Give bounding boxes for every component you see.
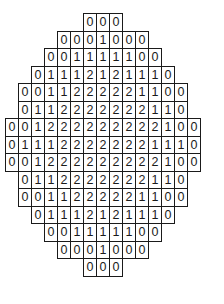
grid-cell: 1 <box>135 66 149 85</box>
grid-cell: 2 <box>122 153 136 172</box>
grid-cell: 0 <box>109 241 123 260</box>
grid-cell: 2 <box>83 188 97 207</box>
grid-cell: 0 <box>109 31 123 50</box>
grid-row: 0112222222110 <box>18 171 188 190</box>
grid-cell: 2 <box>70 118 84 137</box>
grid-cell: 1 <box>57 206 71 225</box>
grid-cell: 2 <box>96 118 110 137</box>
grid-cell: 0 <box>174 101 188 120</box>
grid-cell: 0 <box>18 83 32 102</box>
grid-cell: 1 <box>96 66 110 85</box>
grid-cell: 2 <box>83 83 97 102</box>
grid-cell: 2 <box>122 136 136 155</box>
grid-cell: 2 <box>70 83 84 102</box>
grid-cell: 1 <box>31 171 45 190</box>
grid-cell: 1 <box>31 153 45 172</box>
grid-cell: 0 <box>135 241 149 260</box>
grid-cell: 0 <box>96 13 110 32</box>
grid-cell: 2 <box>148 153 162 172</box>
grid-cell: 0 <box>135 31 149 50</box>
grid-cell: 2 <box>109 153 123 172</box>
grid-cell: 1 <box>70 48 84 67</box>
grid-cell: 1 <box>44 206 58 225</box>
grid-cell: 2 <box>135 153 149 172</box>
grid-cell: 0 <box>187 153 201 172</box>
grid-cell: 0 <box>161 66 175 85</box>
grid-cell: 1 <box>83 223 97 242</box>
grid-row: 0112222222110 <box>18 101 188 120</box>
grid-cell: 0 <box>161 188 175 207</box>
grid-cell: 2 <box>109 171 123 190</box>
grid-cell: 1 <box>44 101 58 120</box>
grid-cell: 2 <box>83 171 97 190</box>
grid-row: 0001000 <box>57 241 149 260</box>
grid-cell: 1 <box>109 223 123 242</box>
grid-cell: 0 <box>161 83 175 102</box>
grid-cell: 1 <box>44 188 58 207</box>
grid-cell: 0 <box>83 241 97 260</box>
grid-cell: 0 <box>96 258 110 277</box>
grid-cell: 2 <box>109 188 123 207</box>
grid-row: 001222222222100 <box>5 153 201 172</box>
grid-cell: 2 <box>96 153 110 172</box>
grid-cell: 1 <box>135 206 149 225</box>
grid-cell: 1 <box>109 48 123 67</box>
grid-cell: 2 <box>135 136 149 155</box>
grid-row: 001222222222100 <box>5 118 201 137</box>
grid-cell: 0 <box>44 223 58 242</box>
grid-cell: 0 <box>174 188 188 207</box>
grid-cell: 1 <box>148 101 162 120</box>
grid-cell: 0 <box>109 13 123 32</box>
grid-cell: 1 <box>44 66 58 85</box>
grid-cell: 2 <box>70 171 84 190</box>
grid-cell: 2 <box>109 66 123 85</box>
grid-cell: 1 <box>148 206 162 225</box>
grid-cell: 2 <box>96 136 110 155</box>
grid-cell: 2 <box>135 101 149 120</box>
grid-cell: 0 <box>122 241 136 260</box>
grid-cell: 1 <box>148 66 162 85</box>
grid-cell: 2 <box>57 118 71 137</box>
grid-cell: 2 <box>70 153 84 172</box>
grid-cell: 0 <box>18 153 32 172</box>
grid-cell: 2 <box>83 206 97 225</box>
grid-cell: 0 <box>18 188 32 207</box>
grid-cell: 0 <box>83 31 97 50</box>
grid-cell: 2 <box>44 118 58 137</box>
grid-cell: 0 <box>57 241 71 260</box>
grid-cell: 0 <box>161 206 175 225</box>
grid-cell: 2 <box>70 188 84 207</box>
grid-cell: 2 <box>122 83 136 102</box>
grid-cell: 2 <box>83 66 97 85</box>
grid-cell: 1 <box>44 136 58 155</box>
grid-cell: 2 <box>83 136 97 155</box>
grid-cell: 1 <box>122 66 136 85</box>
grid-cell: 1 <box>96 31 110 50</box>
grid-row: 000 <box>83 258 123 277</box>
grid-cell: 1 <box>70 223 84 242</box>
grid-cell: 2 <box>96 83 110 102</box>
grid-cell: 1 <box>122 48 136 67</box>
grid-cell: 0 <box>174 83 188 102</box>
grid-cell: 1 <box>18 136 32 155</box>
grid-cell: 0 <box>31 188 45 207</box>
grid-cell: 0 <box>5 136 19 155</box>
grid-cell: 2 <box>57 153 71 172</box>
grid-cell: 2 <box>96 171 110 190</box>
grid-cell: 0 <box>57 31 71 50</box>
grid-cell: 2 <box>122 171 136 190</box>
grid-cell: 2 <box>83 153 97 172</box>
grid-cell: 1 <box>31 101 45 120</box>
grid-cell: 1 <box>148 188 162 207</box>
grid-cell: 1 <box>174 136 188 155</box>
grid-cell: 0 <box>57 223 71 242</box>
grid-row: 01112121110 <box>31 206 175 225</box>
grid-cell: 2 <box>83 118 97 137</box>
grid-cell: 0 <box>187 118 201 137</box>
grid-cell: 0 <box>109 258 123 277</box>
grid-cell: 1 <box>96 241 110 260</box>
grid-cell: 2 <box>135 118 149 137</box>
grid-cell: 0 <box>57 48 71 67</box>
grid-cell: 0 <box>135 48 149 67</box>
grid-cell: 0 <box>174 118 188 137</box>
